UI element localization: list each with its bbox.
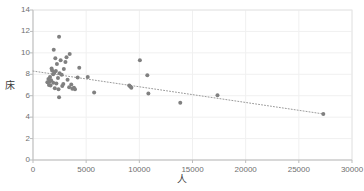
scatter-point xyxy=(65,55,69,59)
y-tick-label: 6 xyxy=(8,91,30,100)
y-tick-label: 14 xyxy=(8,5,30,14)
x-tick-label: 5000 xyxy=(66,165,106,174)
y-tick-label: 10 xyxy=(8,48,30,57)
scatter-point xyxy=(53,86,57,90)
scatter-point xyxy=(66,78,70,82)
scatter-point xyxy=(60,73,64,77)
scatter-point xyxy=(56,76,60,80)
scatter-point xyxy=(321,112,325,116)
scatter-point xyxy=(178,101,182,105)
scatter-point xyxy=(63,60,67,64)
scatter-point xyxy=(62,67,66,71)
scatter-point xyxy=(57,87,61,91)
scatter-point xyxy=(59,58,63,62)
y-axis-title: 床 xyxy=(2,80,18,91)
x-tick-label: 30000 xyxy=(332,165,364,174)
scatter-point xyxy=(138,58,142,62)
y-tick-label: 4 xyxy=(8,112,30,121)
scatter-point xyxy=(68,52,72,56)
x-tick-label: 15000 xyxy=(173,165,213,174)
scatter-point xyxy=(53,56,57,60)
y-tick-label: 8 xyxy=(8,69,30,78)
scatter-point xyxy=(146,92,150,96)
axis-tick-marks xyxy=(30,10,352,163)
scatter-point xyxy=(92,91,96,95)
x-tick-label: 20000 xyxy=(226,165,266,174)
scatter-point xyxy=(77,66,81,70)
x-axis-title: 人 xyxy=(0,174,364,185)
y-tick-label: 12 xyxy=(8,26,30,35)
scatter-point xyxy=(57,95,61,99)
scatter-point xyxy=(215,93,219,97)
x-tick-label: 0 xyxy=(13,165,53,174)
scatter-point xyxy=(51,72,55,76)
scatter-point xyxy=(86,75,90,79)
chart-canvas xyxy=(0,0,364,191)
data-points xyxy=(45,35,325,116)
y-tick-label: 2 xyxy=(8,134,30,143)
scatter-point xyxy=(129,86,133,90)
y-tick-label: 0 xyxy=(8,155,30,164)
scatter-point xyxy=(145,73,149,77)
gridlines xyxy=(33,10,352,160)
x-tick-label: 10000 xyxy=(119,165,159,174)
scatter-point xyxy=(49,84,53,88)
scatter-point xyxy=(73,87,77,91)
scatter-point xyxy=(55,62,59,66)
scatter-point xyxy=(76,76,80,80)
scatter-point xyxy=(60,84,64,88)
scatter-point xyxy=(54,81,58,85)
scatter-point xyxy=(52,48,56,52)
x-tick-label: 25000 xyxy=(279,165,319,174)
scatter-point xyxy=(57,35,61,39)
scatter-chart: 0246810121405000100001500020000250003000… xyxy=(0,0,364,191)
